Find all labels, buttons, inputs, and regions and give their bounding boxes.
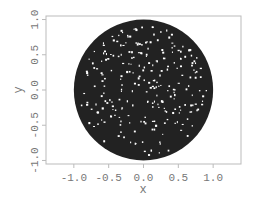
x-tick-label: -0.5 bbox=[95, 172, 121, 184]
y-tick-label: -0.5 bbox=[29, 112, 41, 138]
y-axis-label: y bbox=[12, 86, 26, 93]
y-axis: -1.0-0.50.00.51.0 bbox=[29, 10, 46, 174]
scatter-plot: -1.0-0.50.00.51.0 -1.0-0.50.00.51.0 x y bbox=[0, 0, 257, 207]
data-points bbox=[74, 20, 213, 161]
y-tick-label: 0.5 bbox=[29, 45, 41, 65]
x-axis-label: x bbox=[139, 183, 146, 197]
x-axis: -1.0-0.50.00.51.0 bbox=[61, 164, 223, 184]
y-tick-label: 0.0 bbox=[29, 80, 41, 100]
x-tick-label: 0.5 bbox=[168, 172, 188, 184]
x-tick-label: 1.0 bbox=[203, 172, 223, 184]
y-tick-label: 1.0 bbox=[29, 10, 41, 30]
x-tick-label: -1.0 bbox=[61, 172, 87, 184]
y-tick-label: -1.0 bbox=[29, 147, 41, 173]
